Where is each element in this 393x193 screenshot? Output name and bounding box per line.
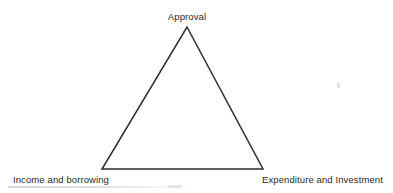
vertex-label-expenditure-and-investment: Expenditure and Investment <box>262 174 383 185</box>
diagram-canvas: Approval Income and borrowing Expenditur… <box>0 0 393 193</box>
triangle-outline <box>102 27 263 169</box>
vertex-label-income-and-borrowing: Income and borrowing <box>13 174 109 185</box>
triangle-shape <box>0 0 393 193</box>
vertex-label-approval: Approval <box>168 11 206 22</box>
